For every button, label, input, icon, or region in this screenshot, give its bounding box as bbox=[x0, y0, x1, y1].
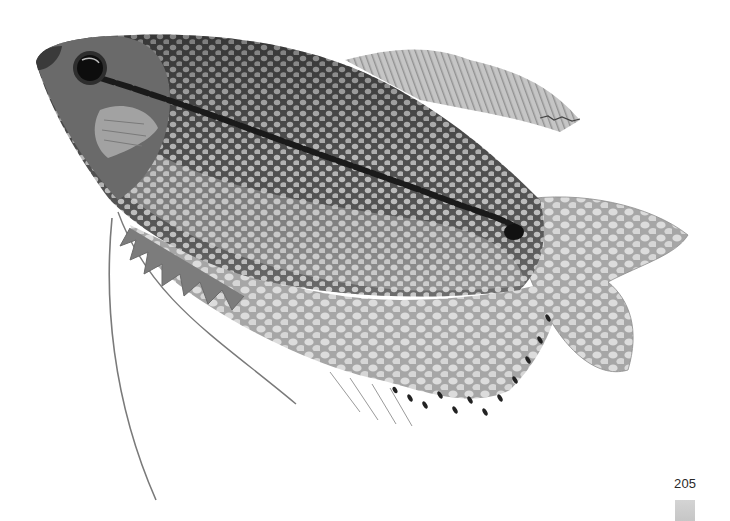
tail-spot bbox=[504, 224, 524, 240]
page-number: 205 bbox=[674, 476, 696, 491]
page-edge-tab bbox=[675, 500, 695, 521]
fish-photo bbox=[0, 0, 730, 521]
book-page: 205 bbox=[0, 0, 730, 521]
